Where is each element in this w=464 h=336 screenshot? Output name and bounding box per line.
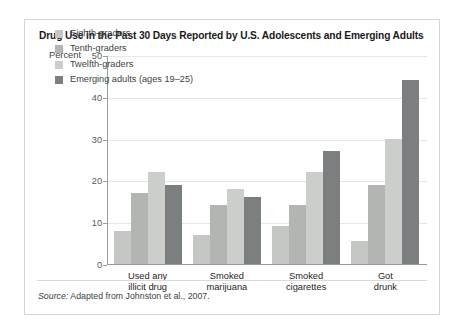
- bar-group: Smoked cigarettes: [267, 56, 346, 264]
- y-tick-mark: [103, 98, 107, 99]
- legend-swatch-icon: [55, 30, 63, 38]
- bar: [193, 235, 210, 264]
- bar: [131, 193, 148, 264]
- legend-item: Twelfth-graders: [55, 60, 193, 69]
- x-axis-line: [107, 264, 427, 265]
- bar: [272, 226, 289, 264]
- bar-group: Used any illicit drug: [108, 56, 187, 264]
- x-axis-category-label: Smoked cigarettes: [267, 271, 346, 294]
- bar-group: Got drunk: [346, 56, 425, 264]
- legend-label: Twelfth-graders: [70, 60, 133, 69]
- legend-label: Eighth-graders: [70, 29, 130, 38]
- bar-groups: Used any illicit drugSmoked marijuanaSmo…: [108, 56, 425, 264]
- y-tick-label: 10: [92, 218, 102, 228]
- y-tick-label: 40: [92, 93, 102, 103]
- bar: [210, 205, 227, 264]
- y-tick-mark: [103, 223, 107, 224]
- bar: [244, 197, 261, 264]
- plot-area: 01020304050 Used any illicit drugSmoked …: [107, 56, 425, 265]
- y-tick-mark: [103, 140, 107, 141]
- legend-item: Eighth-graders: [55, 29, 193, 38]
- bar: [165, 185, 182, 264]
- footer-divider: [37, 280, 427, 281]
- bar: [323, 151, 340, 264]
- bar: [148, 172, 165, 264]
- figure-container: Drug Use in the Past 30 Days Reported by…: [24, 19, 440, 315]
- y-tick-mark: [103, 181, 107, 182]
- chart-legend: Eighth-gradersTenth-gradersTwelfth-grade…: [55, 29, 193, 85]
- source-text: Adapted from Johnston et al., 2007.: [70, 291, 209, 301]
- source-note: Source: Adapted from Johnston et al., 20…: [38, 291, 210, 301]
- x-axis-category-label: Got drunk: [346, 271, 425, 294]
- bar: [385, 139, 402, 264]
- legend-swatch-icon: [55, 76, 63, 84]
- bar: [351, 241, 368, 264]
- legend-label: Emerging adults (ages 19–25): [70, 75, 193, 84]
- bar: [227, 189, 244, 264]
- bar: [289, 205, 306, 264]
- legend-label: Tenth-graders: [70, 44, 127, 53]
- legend-swatch-icon: [55, 61, 63, 69]
- y-tick-mark: [103, 265, 107, 266]
- legend-item: Emerging adults (ages 19–25): [55, 76, 193, 85]
- y-tick-label: 30: [92, 135, 102, 145]
- y-tick-label: 20: [92, 176, 102, 186]
- legend-item: Tenth-graders: [55, 45, 193, 54]
- bar: [368, 185, 385, 264]
- y-tick-label: 0: [97, 260, 102, 270]
- legend-swatch-icon: [55, 45, 63, 53]
- bar: [114, 231, 131, 264]
- bar: [402, 80, 419, 264]
- source-label: Source:: [38, 291, 68, 301]
- bar-group: Smoked marijuana: [187, 56, 266, 264]
- bar: [306, 172, 323, 264]
